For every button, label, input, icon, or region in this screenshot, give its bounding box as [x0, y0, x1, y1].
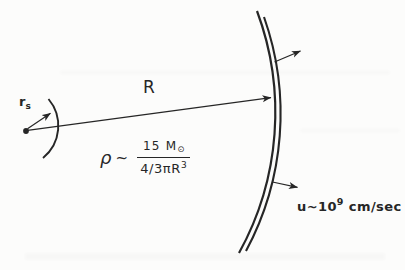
- velocity-unit: cm/sec: [349, 199, 402, 214]
- supernova-shell-diagram: rs R ρ ~ 15 M⊙ 4/3πR3 u~109cm/sec: [0, 0, 405, 270]
- scan-noise-band: [25, 253, 385, 260]
- scan-noise-band: [60, 70, 390, 75]
- core-radius-label: rs: [19, 95, 31, 111]
- shell-arc-inner: [239, 11, 275, 253]
- shell-radius-arrow: [28, 98, 272, 131]
- velocity-value: u~10: [297, 199, 337, 214]
- core-radius-arrow: [28, 113, 51, 129]
- formula-fraction: 15 M⊙ 4/3πR3: [137, 139, 190, 176]
- diagram-canvas: [0, 0, 405, 270]
- tilde-symbol: ~: [115, 149, 128, 167]
- velocity-exponent: 9: [337, 196, 344, 207]
- solar-mass-symbol: ⊙: [177, 144, 184, 154]
- expansion-arrow-upper: [275, 51, 301, 62]
- denominator-exponent: 3: [181, 160, 187, 170]
- expansion-arrow-lower: [273, 182, 298, 187]
- shell-radius-label: R: [143, 79, 155, 96]
- denominator-text: 4/3πR: [140, 161, 181, 176]
- core-radius-subscript: s: [25, 101, 30, 111]
- rho-symbol: ρ: [100, 147, 111, 168]
- velocity-label: u~109cm/sec: [297, 197, 402, 213]
- fraction-denominator: 4/3πR3: [140, 158, 187, 176]
- numerator-text: 15 M: [143, 139, 177, 153]
- fraction-numerator: 15 M⊙: [137, 139, 190, 158]
- density-formula: ρ ~ 15 M⊙ 4/3πR3: [100, 139, 190, 176]
- scan-noise-band: [300, 128, 400, 133]
